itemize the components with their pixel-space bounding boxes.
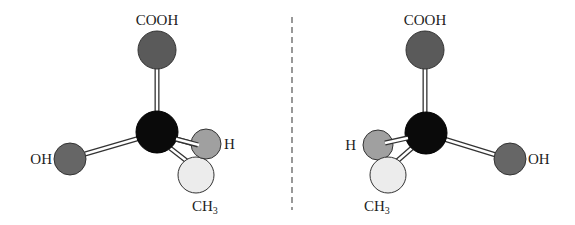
right-oh-label: OH [528, 151, 550, 167]
diagram-canvas: COOH OH H CH3 [0, 0, 575, 225]
right-cooh-atom [406, 31, 444, 69]
left-molecule: COOH OH H CH3 [30, 12, 235, 216]
left-ch3-label: CH3 [192, 198, 218, 216]
right-ch3-atom [370, 157, 406, 193]
right-h-atom [363, 130, 393, 160]
right-ch3-label-main: CH [364, 198, 385, 214]
left-bond-oh [85, 138, 140, 154]
left-ch3-atom [178, 157, 214, 193]
right-ch3-label-sub: 3 [385, 205, 390, 216]
right-ch3-label: CH3 [364, 198, 390, 216]
right-carbon-atom [405, 112, 447, 154]
right-h-label: H [345, 137, 356, 153]
left-ch3-label-main: CH [192, 198, 213, 214]
left-carbon-atom [136, 111, 178, 153]
left-h-label: H [224, 136, 235, 152]
left-oh-label: OH [30, 151, 52, 167]
right-oh-atom [494, 143, 526, 175]
right-bond-oh [444, 139, 496, 155]
left-bond-ch3 [170, 148, 188, 162]
left-ch3-label-sub: 3 [213, 205, 218, 216]
right-molecule: COOH OH H CH3 [345, 12, 550, 216]
right-cooh-label: COOH [404, 12, 447, 28]
left-oh-atom [54, 143, 86, 175]
left-cooh-label: COOH [136, 12, 179, 28]
left-cooh-atom [138, 31, 176, 69]
